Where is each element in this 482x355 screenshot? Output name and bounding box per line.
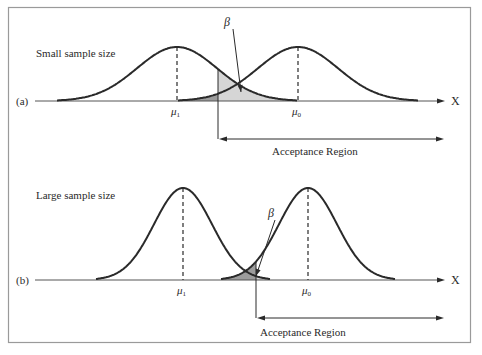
beta-pointer-arrow xyxy=(256,220,275,276)
axis-label: X xyxy=(451,273,460,287)
beta-region-light xyxy=(218,69,297,101)
axis-label: X xyxy=(451,94,460,108)
acceptance-left-arrowhead-icon xyxy=(219,137,227,142)
panel-title: Large sample size xyxy=(36,189,115,201)
acceptance-right-arrowhead-icon xyxy=(436,316,444,321)
acceptance-region-label: Acceptance Region xyxy=(260,326,346,338)
panel-b: Large sample size (b) X μ1 μ0 β Acceptan… xyxy=(16,188,460,338)
mu0-label: μ0 xyxy=(301,284,312,298)
panel-label: (b) xyxy=(16,274,29,287)
beta-label: β xyxy=(223,15,230,29)
mu1-label: μ1 xyxy=(176,284,187,298)
panel-label: (a) xyxy=(16,95,29,108)
mu0-label: μ0 xyxy=(291,105,302,119)
panel-title: Small sample size xyxy=(36,47,116,59)
beta-pointer-arrowhead-icon xyxy=(256,269,261,276)
acceptance-region-label: Acceptance Region xyxy=(272,145,358,157)
beta-label: β xyxy=(267,206,274,220)
panel-a: Small sample size (a) X μ1 μ0 β Acceptan… xyxy=(16,15,460,157)
x-axis-arrowhead-icon xyxy=(437,99,445,104)
sample-size-figure: Small sample size (a) X μ1 μ0 β Acceptan… xyxy=(0,0,482,355)
acceptance-right-arrowhead-icon xyxy=(436,137,444,142)
mu1-label: μ1 xyxy=(170,105,181,119)
acceptance-left-arrowhead-icon xyxy=(257,316,265,321)
x-axis-arrowhead-icon xyxy=(437,278,445,283)
